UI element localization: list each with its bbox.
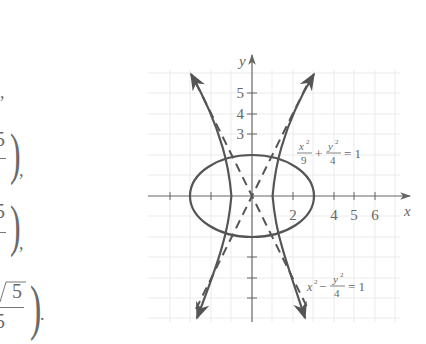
svg-text:9: 9 — [301, 154, 307, 166]
svg-text:2: 2 — [335, 138, 339, 146]
svg-text:x: x — [298, 140, 304, 152]
svg-text:= 1: = 1 — [344, 146, 361, 161]
svg-text:2: 2 — [306, 138, 310, 146]
svg-text:y: y — [327, 140, 333, 152]
x-tick-label-4: 4 — [330, 207, 338, 223]
y-tick-label-5: 5 — [237, 85, 245, 101]
x-tick-label-2: 2 — [289, 207, 297, 223]
svg-text:2: 2 — [314, 278, 318, 286]
svg-text:4: 4 — [330, 154, 336, 166]
svg-text:2: 2 — [340, 271, 344, 279]
ellipse-equation-label: x 2 9 + y 2 4 = 1 — [297, 138, 361, 166]
svg-text:−: − — [319, 279, 326, 294]
x-axis-label: x — [403, 203, 411, 219]
svg-text:y: y — [332, 273, 338, 285]
hyperbola-equation-label: x 2 − y 2 4 = 1 — [306, 271, 365, 299]
x-tick-label-5: 5 — [350, 207, 358, 223]
svg-text:+: + — [315, 146, 322, 161]
y-tick-label-4: 4 — [237, 106, 245, 122]
conic-plot: 2 4 5 6 x 5 4 3 y x 2 9 + y 2 4 = 1 x 2 … — [0, 0, 426, 344]
x-tick-label-6: 6 — [371, 207, 379, 223]
y-tick-label-3: 3 — [237, 126, 245, 142]
svg-text:= 1: = 1 — [348, 279, 365, 294]
y-axis-label: y — [237, 53, 246, 69]
svg-text:4: 4 — [334, 287, 340, 299]
svg-text:x: x — [306, 280, 313, 294]
